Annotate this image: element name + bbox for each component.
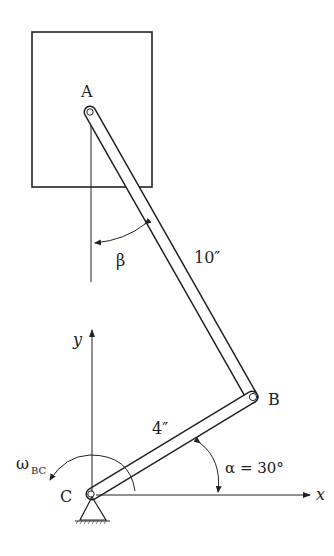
label-c: C (60, 487, 72, 506)
beta-angle-arc (95, 224, 145, 243)
label-a: A (80, 82, 93, 101)
label-y-axis: y (72, 330, 83, 349)
ground-support (75, 497, 110, 524)
pin-c (88, 491, 94, 497)
label-alpha: α = 30° (225, 459, 284, 477)
label-link-ab-length: 10″ (194, 248, 220, 267)
label-beta: β (116, 251, 125, 270)
label-b: B (268, 390, 280, 409)
pin-a (87, 109, 93, 115)
mechanism-diagram: A B C 10″ 4″ β α = 30° y x ω BC (0, 0, 334, 556)
label-omega-bc: ω BC (16, 454, 47, 476)
svg-text:BC: BC (31, 465, 47, 476)
link-bc (92, 397, 252, 494)
diagram-svg: A B C 10″ 4″ β α = 30° y x ω BC (0, 0, 334, 556)
label-x-axis: x (316, 485, 325, 504)
svg-text:ω: ω (16, 454, 29, 473)
alpha-angle-arc (200, 443, 219, 492)
link-ab (90, 112, 252, 397)
pin-b (249, 393, 256, 400)
label-link-bc-length: 4″ (152, 419, 168, 438)
